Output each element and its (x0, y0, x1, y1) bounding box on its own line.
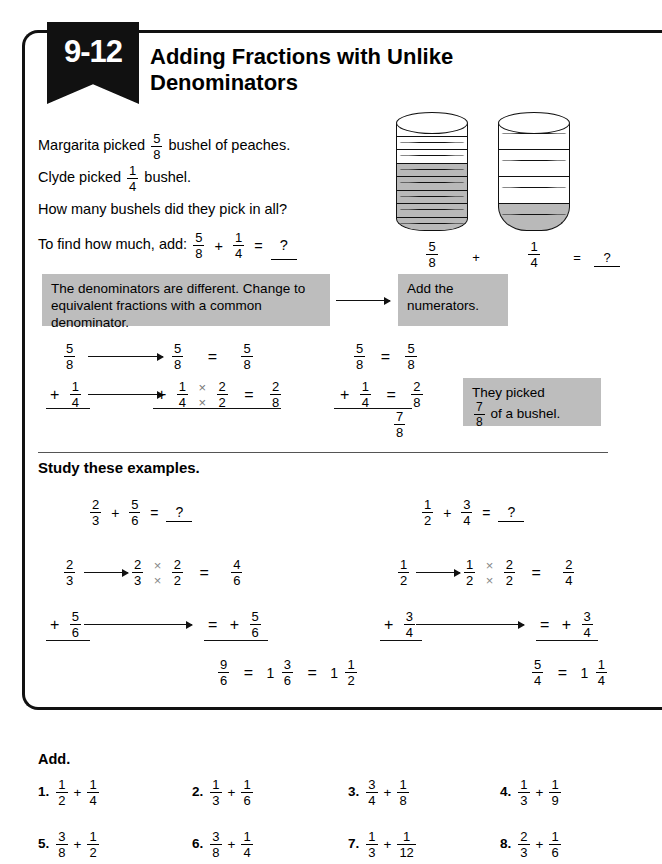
we-left-r1-mid: 5 8 (172, 342, 183, 371)
study-ex1-row2-res: = + 5 6 (204, 610, 263, 639)
we-left-r2-base: 1 4 (177, 380, 188, 409)
problem-line-4-text: To find how much, add: (38, 236, 187, 252)
bushel-band-shaded (396, 164, 468, 178)
exercise-fraction-2: 14 (87, 778, 98, 807)
study-ex2-multiplier: 2 2 (504, 558, 515, 587)
exercise-fraction-1: 13 (518, 778, 529, 807)
study-ex2-mixed-whole: 1 (579, 665, 589, 681)
problem-line-2: Clyde picked 1 4 bushel. (38, 164, 383, 193)
exercise-number: 3. (348, 784, 359, 799)
bushel-band-empty (396, 137, 468, 151)
equals-sign: = (250, 233, 266, 259)
study-ex2-rule-2 (536, 640, 598, 641)
study-ex2-sum: 5 4 (532, 658, 543, 687)
exercise-fraction-2: 112 (397, 830, 415, 859)
study-ex1-multiplier: 2 2 (172, 558, 183, 587)
exercise-fraction-1: 34 (366, 778, 377, 807)
exercise-operator: + (380, 837, 396, 852)
exercise-item[interactable]: 4.13+19 (500, 778, 563, 807)
bushel-answer-blank[interactable]: ? (594, 250, 620, 267)
study-ex1-f1: 2 3 (90, 498, 101, 527)
study-ex2-sum-line: 5 4 = 1 1 4 (530, 658, 609, 687)
problem-line-2-text-b: bushel. (144, 169, 191, 185)
exercise-item[interactable]: 7.13+112 (348, 830, 418, 859)
exercise-item[interactable]: 1.12+14 (38, 778, 101, 807)
fraction-5-8: 5 8 (151, 132, 162, 161)
study-ex2-f1: 1 2 (422, 498, 433, 527)
exercise-fraction-1: 38 (56, 830, 67, 859)
study-ex2-row2-start: + 3 4 (380, 610, 417, 639)
bushel-band-empty (396, 150, 468, 164)
bushel-band-empty (498, 177, 570, 204)
study-ex2-rule-1 (380, 640, 422, 641)
study-ex1-plus: + (107, 505, 123, 521)
study-ex1-eq: = (146, 505, 162, 521)
band-dashed-line (501, 187, 567, 188)
lesson-number: 9-12 (47, 34, 139, 70)
exercise-fraction-1: 13 (210, 778, 221, 807)
study-ex2-f2: 3 4 (461, 498, 472, 527)
we-left-r2-start: 1 4 (70, 380, 81, 409)
exercise-fraction-2: 14 (241, 830, 252, 859)
exercise-number: 5. (38, 836, 49, 851)
study-ex1-r1-eq: = (189, 564, 218, 582)
problem-line-1-text-b: bushel of peaches. (168, 137, 290, 153)
exercise-item[interactable]: 3.34+18 (348, 778, 411, 807)
callout-answer: They picked 7 8 of a bushel. (463, 378, 601, 426)
page-title: Adding Fractions with Unlike Denominator… (150, 44, 480, 96)
callout-denominators: The denominators are different. Change t… (42, 274, 330, 326)
we-left-r2-result: 2 8 (270, 380, 281, 409)
we-right-sum: 7 8 (394, 410, 405, 439)
exercise-item[interactable]: 5.38+12 (38, 830, 101, 859)
study-ex1-answer-blank[interactable]: ? (166, 504, 192, 522)
bushel-band-shaded (396, 218, 468, 232)
study-ex1-header: 2 3 + 5 6 = ? (88, 498, 192, 527)
we-right-r2-plus: + (336, 386, 353, 404)
cylinder-bands (396, 123, 470, 231)
bushel-band-shaded (396, 204, 468, 218)
we-left-sum-rule-2 (153, 408, 281, 409)
study-ex1-times: × × (152, 559, 164, 587)
study-ex1-row2-start: + 5 6 (46, 610, 83, 639)
band-dashed-line (399, 209, 465, 210)
study-ex2-header: 1 2 + 3 4 = ? (420, 498, 524, 527)
exercise-item[interactable]: 2.13+16 (192, 778, 255, 807)
arrow-to-add-numerators (336, 300, 390, 301)
exercise-item[interactable]: 6.38+14 (192, 830, 255, 859)
exercise-operator: + (224, 785, 240, 800)
we-right-r1: 5 8 (354, 342, 365, 371)
problem-line-4: To find how much, add: 5 8 + 1 4 = ? (38, 231, 383, 260)
fraction-1-4: 1 4 (127, 164, 138, 193)
study-ex2-answer-blank[interactable]: ? (498, 504, 524, 522)
we-left-r1-start: 5 8 (64, 342, 75, 371)
we-left-r2-eq: = (234, 386, 263, 404)
we-left-r1-end: 5 8 (241, 342, 252, 371)
we-left-r1-eq: = (190, 348, 235, 366)
study-ex1-mixed1-whole: 1 (265, 665, 275, 681)
study-ex1-arrow-row2 (84, 624, 192, 625)
exercise-number: 4. (500, 784, 511, 799)
arrow-convert-row1 (88, 356, 163, 357)
callout-answer-line-2: 7 8 of a bushel. (472, 401, 592, 428)
band-dashed-line (399, 155, 465, 156)
bushel-band-shaded (396, 191, 468, 205)
exercise-operator: + (380, 785, 396, 800)
study-ex2-r1-eq: = (521, 564, 550, 582)
study-heading: Study these examples. (38, 459, 200, 476)
study-ex1-mixed2-frac: 1 2 (345, 658, 356, 687)
answer-blank[interactable]: ? (271, 232, 297, 260)
exercise-fraction-1: 23 (518, 830, 529, 859)
exercise-item[interactable]: 8.23+16 (500, 830, 563, 859)
bushel-band-shaded (396, 177, 468, 191)
bushel-plus-sign: + (464, 250, 488, 265)
problem-statement: Margarita picked 5 8 bushel of peaches. … (38, 132, 383, 263)
problem-line-3: How many bushels did they pick in all? (38, 196, 383, 222)
exercise-number: 1. (38, 784, 49, 799)
problem-line-1-text-a: Margarita picked (38, 137, 145, 153)
band-dashed-line (399, 182, 465, 183)
exercise-fraction-1: 12 (56, 778, 67, 807)
we-left-r2-plus: + (46, 386, 63, 404)
exercise-operator: + (532, 785, 548, 800)
study-ex1-row1-start: 2 3 (62, 558, 77, 587)
exercise-fraction-1: 13 (366, 830, 377, 859)
